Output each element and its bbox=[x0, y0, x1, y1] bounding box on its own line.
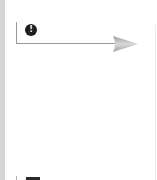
bottom-partial-badge bbox=[26, 177, 40, 180]
badge-glyph: ! bbox=[29, 26, 33, 34]
connector-vertical-line bbox=[16, 22, 17, 44]
right-edge-divider bbox=[155, 25, 156, 180]
exclamation-circle-icon: ! bbox=[25, 24, 37, 36]
arrowhead-icon bbox=[111, 35, 139, 53]
left-sidebar-strip bbox=[0, 0, 5, 180]
bottom-connector-tick bbox=[16, 176, 17, 180]
connector-horizontal-line bbox=[16, 43, 116, 44]
